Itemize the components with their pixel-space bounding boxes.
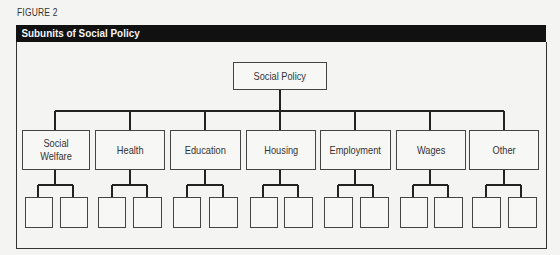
root-node-label: Social Policy	[254, 70, 306, 83]
node-label: Other	[492, 144, 515, 157]
leaf-box	[360, 197, 389, 228]
leaf-box	[209, 197, 238, 228]
node-label: Employment	[330, 144, 381, 157]
leaf-box	[25, 197, 53, 228]
node-employment: Employment	[320, 130, 391, 170]
leaf-box	[472, 197, 501, 228]
node-wages: Wages	[396, 130, 466, 170]
node-label: Education	[185, 144, 226, 157]
leaf-box	[250, 197, 278, 228]
node-label: Health	[117, 144, 144, 157]
node-label: Social Welfare	[40, 137, 72, 163]
node-housing: Housing	[246, 130, 316, 170]
leaf-box	[133, 197, 162, 228]
leaf-box	[508, 197, 537, 228]
root-node-social-policy: Social Policy	[233, 62, 327, 90]
node-label: Housing	[264, 144, 298, 157]
leaf-box	[60, 197, 88, 228]
leaf-box	[284, 197, 313, 228]
leaf-box	[173, 197, 201, 228]
leaf-box	[400, 197, 428, 228]
node-label: Wages	[417, 144, 445, 157]
node-social-welfare: Social Welfare	[22, 130, 90, 170]
leaf-box	[98, 197, 126, 228]
node-health: Health	[95, 130, 165, 170]
leaf-box	[434, 197, 463, 228]
leaf-box	[324, 197, 353, 228]
node-education: Education	[170, 130, 241, 170]
node-other: Other	[469, 130, 539, 170]
